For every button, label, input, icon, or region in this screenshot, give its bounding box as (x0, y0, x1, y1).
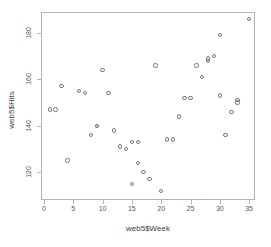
y-axis-tick (37, 126, 41, 127)
x-axis-tick (220, 200, 221, 204)
x-axis-tick-label: 0 (42, 205, 46, 212)
y-axis-tick (37, 33, 41, 34)
x-axis-tick-label: 35 (245, 205, 253, 212)
plot-frame (41, 12, 255, 200)
x-axis-tick-label: 10 (99, 205, 107, 212)
x-axis-tick (73, 200, 74, 204)
x-axis-tick (249, 200, 250, 204)
y-axis-tick-label: 160 (25, 73, 32, 85)
y-axis-tick-label: 120 (25, 166, 32, 178)
x-axis-tick-label: 30 (216, 205, 224, 212)
x-axis-tick-label: 20 (157, 205, 165, 212)
y-axis-tick-label: 140 (25, 120, 32, 132)
x-axis-tick (132, 200, 133, 204)
y-axis-tick (37, 79, 41, 80)
y-axis-tick (37, 172, 41, 173)
y-axis-tick-label: 180 (25, 27, 32, 39)
x-axis-tick (161, 200, 162, 204)
x-axis-tick (103, 200, 104, 204)
x-axis-tick-label: 15 (128, 205, 136, 212)
x-axis-tick-label: 25 (187, 205, 195, 212)
x-axis-tick (44, 200, 45, 204)
x-axis-title: web5$Week (41, 225, 255, 233)
scatter-plot: web5$Week web5$Hits 05101520253035120140… (0, 0, 271, 247)
x-axis-tick-label: 5 (71, 205, 75, 212)
y-axis-title: web5$Hits (8, 80, 16, 140)
x-axis-tick (191, 200, 192, 204)
